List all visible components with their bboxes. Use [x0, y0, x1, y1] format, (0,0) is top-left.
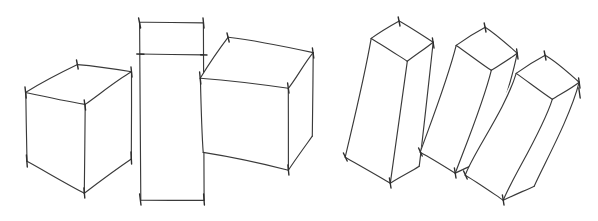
tall-box-corner-mark-top-right [203, 18, 204, 28]
cube-one-corner-mark-right-bottom [131, 152, 132, 164]
cube-one-corner-mark-left-bottom [26, 155, 27, 167]
tall-box-edge-top [140, 22, 204, 23]
tall-box-front-face [140, 22, 204, 200]
sketch-canvas [0, 0, 598, 221]
cube-one-corner-mark-middle-bottom [84, 188, 85, 198]
cube-one-corner-mark-right-top [131, 67, 132, 77]
shape-tall-box [137, 18, 207, 205]
shape-cube-three [200, 33, 314, 175]
drawing-surface [0, 0, 598, 221]
tall-box-corner-mark-bottom-right [204, 194, 205, 205]
cube-three-corner-mark-middle-bottom [288, 165, 289, 175]
